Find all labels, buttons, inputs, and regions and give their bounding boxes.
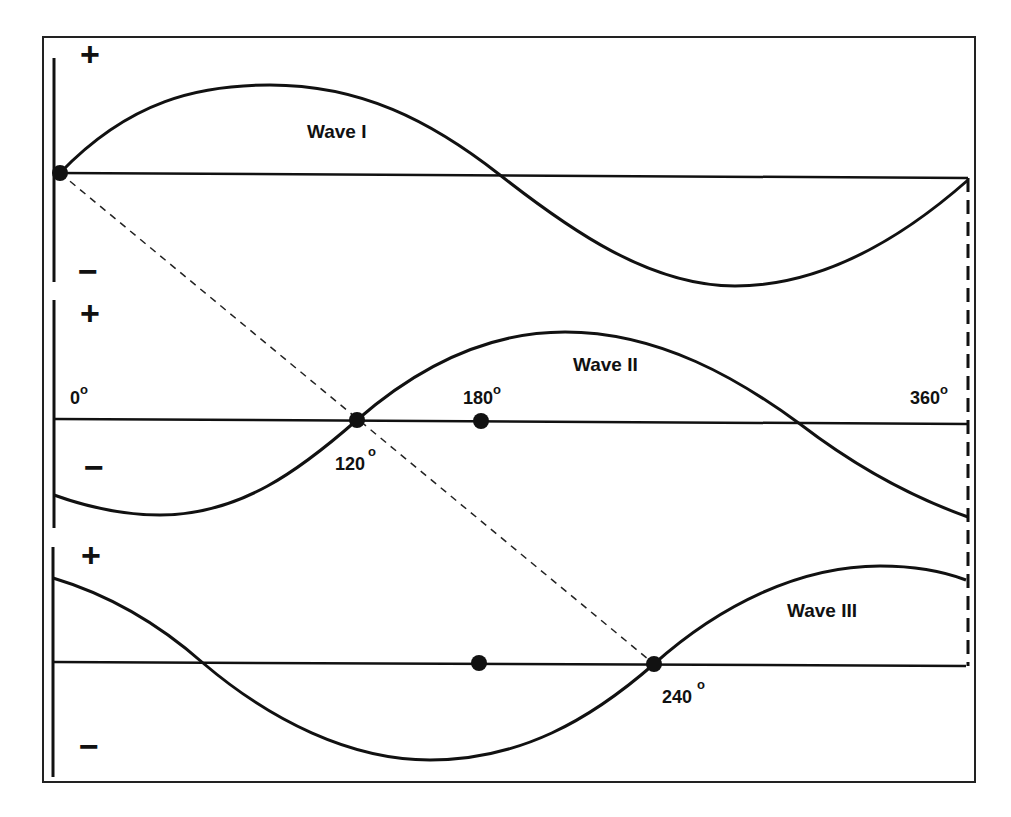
wave-1-origin-dot bbox=[52, 165, 68, 181]
angle-240-label: 240o bbox=[662, 677, 705, 707]
plus-sign-wave-1: + bbox=[80, 35, 100, 73]
plus-sign-wave-2: + bbox=[80, 294, 100, 332]
wave-1-label: Wave I bbox=[307, 121, 367, 142]
minus-sign-wave-2: − bbox=[84, 448, 104, 486]
angle-360-label: 360o bbox=[910, 382, 948, 408]
angle-180-label: 180o bbox=[463, 382, 501, 408]
wave-1-curve bbox=[60, 85, 968, 286]
wave-3-240-dot bbox=[646, 656, 662, 672]
diagram-frame bbox=[43, 37, 975, 782]
angle-labels: 0o 120o 180o 360o 240o bbox=[70, 382, 948, 707]
three-phase-wave-diagram: + − + − + − Wave I Wave II Wave III 0o 1… bbox=[0, 0, 1011, 817]
wave-3-180-dot bbox=[471, 655, 487, 671]
wave-3-label: Wave III bbox=[787, 600, 857, 621]
baseline-axes bbox=[53, 173, 968, 666]
wave-2-label: Wave II bbox=[573, 354, 638, 375]
left-axis bbox=[53, 58, 54, 777]
wave-3-axis bbox=[53, 662, 966, 666]
angle-120-label: 120o bbox=[335, 444, 376, 474]
wave-2-180-dot bbox=[473, 413, 489, 429]
angle-0-label: 0o bbox=[70, 382, 88, 408]
minus-sign-wave-1: − bbox=[78, 252, 98, 290]
minus-sign-wave-3: − bbox=[79, 727, 99, 765]
wave-1-axis bbox=[56, 173, 968, 178]
plus-sign-wave-3: + bbox=[81, 536, 101, 574]
wave-2-axis bbox=[54, 419, 968, 424]
wave-2-120-dot bbox=[349, 412, 365, 428]
